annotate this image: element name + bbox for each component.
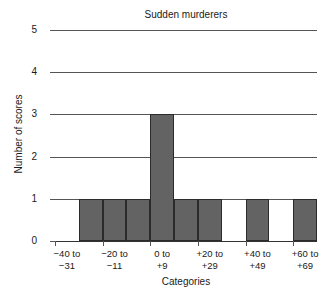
bar bbox=[79, 199, 103, 241]
x-tick-mark-8 bbox=[246, 241, 247, 246]
bar bbox=[103, 199, 127, 241]
y-tick-mark-3 bbox=[50, 114, 55, 115]
histogram-figure: Sudden murderers Number of scores 012345… bbox=[0, 0, 332, 306]
plot-area: 012345 bbox=[55, 30, 317, 241]
bar bbox=[246, 199, 270, 241]
y-tick-mark-2 bbox=[50, 157, 55, 158]
y-axis-label: Number of scores bbox=[13, 74, 25, 194]
y-tick-label-5: 5 bbox=[0, 25, 37, 35]
bar-series bbox=[55, 30, 317, 241]
x-tick-label-10: +60 to +69 bbox=[270, 248, 332, 272]
x-tick-mark-6 bbox=[198, 241, 199, 246]
y-tick-mark-4 bbox=[50, 72, 55, 73]
y-tick-mark-1 bbox=[50, 199, 55, 200]
bar bbox=[150, 114, 174, 241]
y-tick-label-1: 1 bbox=[0, 194, 37, 204]
y-tick-label-0: 0 bbox=[0, 236, 37, 246]
y-tick-mark-5 bbox=[50, 30, 55, 31]
x-tick-mark-2 bbox=[103, 241, 104, 246]
bar bbox=[198, 199, 222, 241]
chart-title: Sudden murderers bbox=[55, 9, 317, 21]
x-axis-ticks: −40 to −31−20 to −110 to +9+20 to +29+40… bbox=[55, 241, 317, 277]
bar bbox=[293, 199, 317, 241]
x-tick-mark-10 bbox=[293, 241, 294, 246]
x-tick-mark-4 bbox=[150, 241, 151, 246]
bar bbox=[174, 199, 198, 241]
y-tick-label-2: 2 bbox=[0, 152, 37, 162]
bar bbox=[126, 199, 150, 241]
x-tick-mark-0 bbox=[55, 241, 56, 246]
y-tick-label-4: 4 bbox=[0, 67, 37, 77]
x-axis-label: Categories bbox=[55, 276, 317, 288]
y-tick-label-3: 3 bbox=[0, 109, 37, 119]
